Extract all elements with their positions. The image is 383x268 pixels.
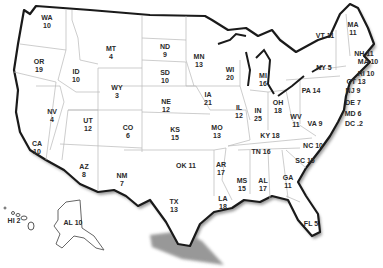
state-value: 3 <box>111 92 122 100</box>
state-abbr: MD 6 <box>345 110 362 118</box>
state-label-ky: KY 18 <box>260 132 279 140</box>
state-value: 19 <box>34 66 45 74</box>
state-label-mt: MT4 <box>106 45 116 61</box>
state-value: 10 <box>41 22 52 30</box>
state-abbr: RI 10 <box>358 70 375 78</box>
state-value: 13 <box>194 61 205 69</box>
state-abbr: MO <box>211 124 222 132</box>
state-label-wv: WV11 <box>290 113 301 129</box>
state-value: 10 <box>72 76 80 84</box>
state-abbr: WI <box>226 66 235 74</box>
state-abbr: NH 11 <box>354 50 373 58</box>
state-abbr: VA 9 <box>308 120 323 128</box>
state-value: 25 <box>254 115 262 123</box>
state-abbr: AL <box>258 177 267 185</box>
state-value: 13 <box>211 132 222 140</box>
state-label-az: AZ8 <box>79 163 88 179</box>
state-abbr: MI <box>259 72 267 80</box>
state-abbr: KS <box>170 126 180 134</box>
state-abbr: NY 5 <box>316 64 331 72</box>
state-value: 10 <box>32 148 42 156</box>
state-label-sc: SC 15 <box>295 157 314 165</box>
state-label-al: AL 10 <box>64 219 83 227</box>
state-label-nv: NV4 <box>47 108 57 124</box>
state-abbr: AZ <box>79 163 88 171</box>
state-label-oh: OH18 <box>273 99 284 115</box>
state-value: 8 <box>79 171 88 179</box>
state-abbr: PA 14 <box>302 87 321 95</box>
state-label-wa: WA10 <box>41 14 52 30</box>
state-abbr: AL 10 <box>64 219 83 227</box>
state-abbr: MA <box>348 21 359 29</box>
state-abbr: CA <box>32 140 42 148</box>
state-label-ar: AR17 <box>216 161 226 177</box>
state-value: 21 <box>204 99 212 107</box>
state-label-md: MD 6 <box>345 110 362 118</box>
state-abbr: IL <box>235 104 243 112</box>
state-label-la: LA18 <box>218 195 227 211</box>
state-value: 16 <box>259 80 267 88</box>
state-label-ia: IA21 <box>204 91 212 107</box>
state-label-al: AL17 <box>258 177 267 193</box>
state-label-mo: MO13 <box>211 124 222 140</box>
state-value: 15 <box>237 185 248 193</box>
state-abbr: WY <box>111 84 122 92</box>
state-abbr: NM <box>117 172 128 180</box>
state-abbr: GA <box>283 174 294 182</box>
state-label-ny: NY 5 <box>316 64 331 72</box>
state-label-nh: NH 11 <box>354 50 373 58</box>
state-label-wi: WI20 <box>226 66 235 82</box>
state-value: 12 <box>235 112 243 120</box>
state-label-mn: MN13 <box>194 53 205 69</box>
state-label-ga: GA11 <box>283 174 294 190</box>
state-label-ne: NE12 <box>161 98 171 114</box>
state-abbr: FL 5 <box>304 220 318 228</box>
state-label-dc: DC .2 <box>345 120 363 128</box>
state-label-ma: MA11 <box>348 21 359 37</box>
state-label-nd: ND9 <box>160 43 170 59</box>
state-abbr: CT 13 <box>346 78 365 86</box>
state-abbr: SC 15 <box>295 157 314 165</box>
state-label-ks: KS15 <box>170 126 180 142</box>
state-label-mi: MI16 <box>259 72 267 88</box>
state-value: 4 <box>106 53 116 61</box>
state-abbr: WV <box>290 113 301 121</box>
state-abbr: TX <box>170 198 179 206</box>
state-label-tx: TX13 <box>170 198 179 214</box>
state-abbr: WA <box>41 14 52 22</box>
state-value: 12 <box>83 125 92 133</box>
state-value: 9 <box>160 51 170 59</box>
state-abbr: NC 10 <box>303 142 323 150</box>
state-value: 12 <box>161 106 171 114</box>
state-label-tn: TN 16 <box>251 148 270 156</box>
state-abbr: TN 16 <box>251 148 270 156</box>
state-label-fl: FL 5 <box>304 220 318 228</box>
state-value: 4 <box>47 116 57 124</box>
state-label-ri: RI 10 <box>358 70 375 78</box>
state-abbr: HI 2 <box>8 217 21 225</box>
state-label-wy: WY3 <box>111 84 122 100</box>
state-abbr: ND <box>160 43 170 51</box>
state-abbr: OR <box>34 58 45 66</box>
state-label-il: IL12 <box>235 104 243 120</box>
state-label-or: OR19 <box>34 58 45 74</box>
state-abbr: KY 18 <box>260 132 279 140</box>
state-value: 18 <box>273 107 284 115</box>
state-abbr: NJ 9 <box>346 87 361 95</box>
state-abbr: OH <box>273 99 284 107</box>
state-abbr: CO <box>123 124 134 132</box>
state-label-nc: NC 10 <box>303 142 323 150</box>
state-label-ut: UT12 <box>83 117 92 133</box>
state-abbr: UT <box>83 117 92 125</box>
state-value: 13 <box>170 206 179 214</box>
state-value: 17 <box>216 169 226 177</box>
state-label-ct: CT 13 <box>346 78 365 86</box>
state-abbr: DC .2 <box>345 120 363 128</box>
state-abbr: ID <box>72 68 80 76</box>
state-abbr: MS <box>237 177 248 185</box>
state-abbr: MN <box>194 53 205 61</box>
state-label-in: IN25 <box>254 107 262 123</box>
state-label-pa: PA 14 <box>302 87 321 95</box>
state-abbr: DE 7 <box>345 99 361 107</box>
state-abbr: MA 10 <box>358 58 378 66</box>
